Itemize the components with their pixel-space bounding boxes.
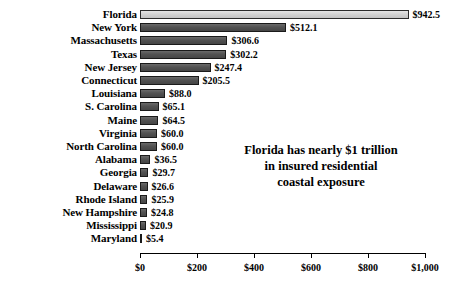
category-label: Mississippi <box>0 219 137 232</box>
bar <box>140 168 148 177</box>
bar-row: Florida$942.5 <box>0 8 454 21</box>
bar <box>140 208 147 217</box>
category-label: Connecticut <box>0 74 137 87</box>
value-label: $60.0 <box>161 127 184 140</box>
value-label: $26.6 <box>152 180 175 193</box>
bar <box>140 155 150 164</box>
bar-row: Rhode Island$25.9 <box>0 193 454 206</box>
x-axis-tick <box>368 253 369 258</box>
x-axis-tick-label: $400 <box>244 261 264 275</box>
bar <box>140 221 146 230</box>
category-label: New Jersey <box>0 61 137 74</box>
annotation-line-3: coastal exposure <box>205 174 437 190</box>
x-axis-line <box>140 253 426 254</box>
category-label: Maine <box>0 114 137 127</box>
bar-row: Texas$302.2 <box>0 48 454 61</box>
annotation-line-2: in insured residential <box>205 158 437 174</box>
value-label: $88.0 <box>169 87 192 100</box>
bar <box>140 182 148 191</box>
bar <box>140 234 142 243</box>
bar-row: Maryland$5.4 <box>0 232 454 245</box>
category-label: New York <box>0 21 137 34</box>
x-axis-tick-label: $1,000 <box>411 261 439 275</box>
x-axis-tick <box>140 253 141 258</box>
bar <box>140 36 227 45</box>
x-axis-tick-label: $200 <box>187 261 207 275</box>
bar-row: Virginia$60.0 <box>0 127 454 140</box>
x-axis-tick <box>254 253 255 258</box>
value-label: $65.1 <box>163 100 186 113</box>
value-label: $24.8 <box>151 206 174 219</box>
x-axis-tick <box>197 253 198 258</box>
bar-row: Massachusetts$306.6 <box>0 34 454 47</box>
bar <box>140 102 159 111</box>
bar <box>140 142 157 151</box>
category-label: S. Carolina <box>0 100 137 113</box>
bar <box>140 76 199 85</box>
x-axis-tick <box>311 253 312 258</box>
value-label: $306.6 <box>231 34 259 47</box>
bar-row: New York$512.1 <box>0 21 454 34</box>
x-axis-tick-label: $600 <box>301 261 321 275</box>
bar <box>140 50 226 59</box>
bar-row: Connecticut$205.5 <box>0 74 454 87</box>
annotation-line-1: Florida has nearly $1 trillion <box>205 142 437 158</box>
category-label: Louisiana <box>0 87 137 100</box>
bar-row: New Hampshire$24.8 <box>0 206 454 219</box>
annotation-callout: Florida has nearly $1 trillion in insure… <box>205 142 437 190</box>
value-label: $25.9 <box>151 193 174 206</box>
bar-row: Mississippi$20.9 <box>0 219 454 232</box>
bar <box>140 63 211 72</box>
x-axis-tick-label: $0 <box>135 261 145 275</box>
value-label: $64.5 <box>162 114 185 127</box>
value-label: $205.5 <box>203 74 231 87</box>
category-label: Virginia <box>0 127 137 140</box>
bar-chart: Florida$942.5New York$512.1Massachusetts… <box>0 0 454 293</box>
category-label: Florida <box>0 8 137 21</box>
bar <box>140 195 147 204</box>
value-label: $247.4 <box>215 61 243 74</box>
category-label: Georgia <box>0 166 137 179</box>
bar <box>140 23 286 32</box>
category-label: New Hampshire <box>0 206 137 219</box>
value-label: $302.2 <box>230 48 258 61</box>
value-label: $36.5 <box>154 153 177 166</box>
category-label: Alabama <box>0 153 137 166</box>
category-label: Texas <box>0 48 137 61</box>
bar <box>140 89 165 98</box>
bar-row: New Jersey$247.4 <box>0 61 454 74</box>
value-label: $60.0 <box>161 140 184 153</box>
bar-row: Maine$64.5 <box>0 114 454 127</box>
value-label: $5.4 <box>146 232 164 245</box>
category-label: Delaware <box>0 180 137 193</box>
bar <box>140 129 157 138</box>
value-label: $512.1 <box>290 21 318 34</box>
category-label: Rhode Island <box>0 193 137 206</box>
value-label: $29.7 <box>152 166 175 179</box>
value-label: $20.9 <box>150 219 173 232</box>
value-label: $942.5 <box>413 8 441 21</box>
bar-row: S. Carolina$65.1 <box>0 100 454 113</box>
x-axis-tick-label: $800 <box>358 261 378 275</box>
category-label: Massachusetts <box>0 34 137 47</box>
bar <box>140 116 158 125</box>
bar <box>140 10 409 19</box>
category-label: Maryland <box>0 232 137 245</box>
x-axis-tick <box>425 253 426 258</box>
bar-row: Louisiana$88.0 <box>0 87 454 100</box>
category-label: North Carolina <box>0 140 137 153</box>
